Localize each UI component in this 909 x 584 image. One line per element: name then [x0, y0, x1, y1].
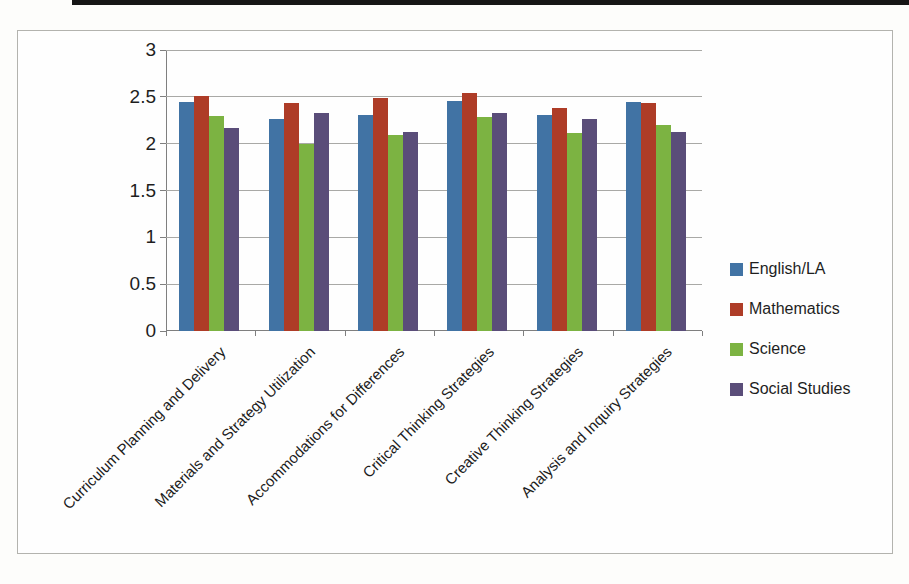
y-axis-tick-label: 2.5: [96, 87, 156, 106]
gridline: [166, 190, 702, 191]
y-axis-tick-label: 3: [96, 40, 156, 59]
plot-area: [166, 50, 702, 331]
y-axis-tick: [160, 190, 166, 191]
bar-3-cat-6: [656, 125, 671, 331]
bar-2-cat-3: [373, 98, 388, 331]
bar-4-cat-2: [314, 113, 329, 331]
x-axis-tick: [702, 331, 703, 336]
bar-2-cat-1: [194, 96, 209, 331]
bar-3-cat-1: [209, 116, 224, 331]
bar-1-cat-3: [358, 115, 373, 331]
legend-swatch-icon: [730, 263, 743, 276]
x-axis-tick: [166, 331, 167, 336]
y-axis-tick-label: 2: [96, 134, 156, 153]
y-axis-tick: [160, 50, 166, 51]
bar-4-cat-3: [403, 132, 418, 331]
bar-2-cat-5: [552, 108, 567, 331]
bar-1-cat-2: [269, 119, 284, 331]
y-axis-tick-label: 0: [96, 321, 156, 340]
bar-4-cat-6: [671, 132, 686, 332]
bar-3-cat-2: [299, 144, 314, 331]
legend-swatch-icon: [730, 383, 743, 396]
page-top-rule: [72, 0, 909, 5]
y-axis-tick-label: 1: [96, 227, 156, 246]
y-axis-tick: [160, 96, 166, 97]
bar-1-cat-5: [537, 115, 552, 331]
bar-2-cat-6: [641, 103, 656, 331]
bar-3-cat-4: [477, 117, 492, 331]
y-axis-tick: [160, 237, 166, 238]
bar-2-cat-4: [462, 93, 477, 331]
bar-1-cat-1: [179, 102, 194, 331]
legend-entry: Mathematics: [730, 300, 850, 318]
x-axis-category-label: Curriculum Planning and Delivery: [59, 343, 228, 512]
x-axis-tick: [345, 331, 346, 336]
x-axis-category-label: Materials and Strategy Utilization: [151, 343, 318, 510]
legend-entry: Science: [730, 340, 850, 358]
legend-entry: English/LA: [730, 260, 850, 278]
legend-label: Science: [749, 340, 806, 358]
x-axis-tick: [255, 331, 256, 336]
x-axis-tick: [523, 331, 524, 336]
legend-entry: Social Studies: [730, 380, 850, 398]
bar-1-cat-4: [447, 101, 462, 331]
bar-3-cat-3: [388, 135, 403, 331]
gridline: [166, 237, 702, 238]
y-axis-tick: [160, 284, 166, 285]
gridline: [166, 96, 702, 97]
y-axis-tick: [160, 143, 166, 144]
bar-3-cat-5: [567, 133, 582, 331]
x-axis-tick: [613, 331, 614, 336]
y-axis-tick-label: 1.5: [96, 181, 156, 200]
x-axis-tick: [434, 331, 435, 336]
bar-1-cat-6: [626, 102, 641, 331]
bar-2-cat-2: [284, 103, 299, 331]
legend-swatch-icon: [730, 343, 743, 356]
legend-swatch-icon: [730, 303, 743, 316]
legend-label: Social Studies: [749, 380, 850, 398]
x-axis-category-label: Analysis and Inquiry Strategies: [518, 343, 676, 501]
gridline: [166, 50, 702, 51]
legend-label: Mathematics: [749, 300, 840, 318]
gridline: [166, 143, 702, 144]
x-axis-category-label: Accommodations for Differences: [242, 343, 407, 508]
chart-legend: English/LAMathematicsScienceSocial Studi…: [730, 260, 850, 420]
bar-4-cat-4: [492, 113, 507, 331]
legend-label: English/LA: [749, 260, 826, 278]
gridline: [166, 284, 702, 285]
bar-4-cat-1: [224, 128, 239, 331]
scanned-page: 00.511.522.53 Curriculum Planning and De…: [0, 0, 909, 584]
chart-frame: 00.511.522.53 Curriculum Planning and De…: [17, 30, 893, 554]
y-axis-tick-label: 0.5: [96, 274, 156, 293]
bar-4-cat-5: [582, 119, 597, 331]
